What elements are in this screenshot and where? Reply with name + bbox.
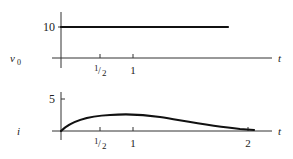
fraction-slash: / (98, 65, 101, 76)
chart-i: 5 1 / 2 1 2 t i (17, 92, 282, 151)
y-axis-label: v (10, 52, 15, 64)
y-axis-label: i (17, 125, 20, 137)
figure: 10 1 / 2 1 t v 0 5 1 / 2 1 2 t i (0, 0, 293, 159)
x-axis-label: t (278, 125, 282, 137)
y-axis-label-subscript: 0 (17, 58, 21, 67)
x-tick-label-half-den: 2 (102, 141, 107, 151)
x-tick-label-two: 2 (245, 137, 251, 149)
y-tick-label-10: 10 (43, 20, 55, 34)
y-tick-label-5: 5 (49, 92, 55, 106)
x-axis-label: t (278, 52, 282, 64)
chart-v0: 10 1 / 2 1 t v 0 (10, 12, 282, 78)
x-tick-label-half-den: 2 (102, 68, 107, 78)
x-tick-label-one: 1 (130, 137, 136, 149)
fraction-slash: / (98, 138, 101, 149)
x-tick-label-one: 1 (130, 64, 136, 76)
i-curve (61, 114, 254, 131)
